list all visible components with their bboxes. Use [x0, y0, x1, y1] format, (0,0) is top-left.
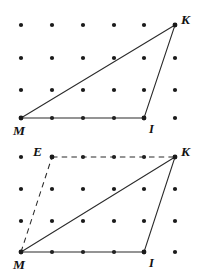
vertex-label-E: E: [32, 144, 42, 159]
vertex-label-I: I: [148, 122, 155, 136]
grid-dot-r2-c4: [142, 219, 146, 223]
grid-dot-r1-c0: [19, 56, 23, 60]
figure-bottom-panel: MIKE: [0, 139, 203, 278]
grid-dot-r0-c1: [50, 23, 54, 27]
grid-dot-r2-c0: [19, 219, 23, 223]
grid-dot-r2-c5: [173, 88, 177, 92]
grid-dot-r0-c2: [81, 23, 85, 27]
grid-dot-r1-c4: [142, 56, 146, 60]
edge-K-I: [144, 25, 175, 118]
grid-dot-r2-c3: [112, 219, 116, 223]
figure-bottom-canvas: MIKE: [0, 139, 203, 278]
solid-edges-bottom: [19, 155, 178, 255]
grid-dot-r2-c1: [50, 219, 54, 223]
figure-stack: MIK MIKE: [0, 0, 203, 278]
grid-dot-r3-c5: [173, 116, 177, 120]
grid-dot-r1-c0: [19, 187, 23, 191]
vertex-label-K: K: [180, 144, 191, 159]
grid-dot-r1-c2: [81, 56, 85, 60]
grid-dot-r0-c0: [19, 155, 23, 159]
grid-dot-r1-c1: [50, 187, 54, 191]
figure-top-panel: MIK: [0, 0, 203, 139]
vertex-dot-I: [142, 116, 147, 121]
vertex-dot-E: [50, 155, 55, 160]
solid-edges-top: [19, 23, 178, 121]
grid-dot-r1-c3: [112, 187, 116, 191]
edge-M-K: [21, 25, 175, 118]
grid-dot-r1-c3: [112, 56, 116, 60]
vertex-label-K: K: [180, 12, 191, 27]
grid-dot-r2-c4: [142, 88, 146, 92]
grid-dot-r2-c2: [81, 219, 85, 223]
grid-dot-r1-c1: [50, 56, 54, 60]
grid-dot-r2-c2: [81, 88, 85, 92]
vertex-labels-top: MIK: [12, 12, 191, 138]
vertex-dot-K: [173, 155, 178, 160]
grid-dot-r2-c5: [173, 219, 177, 223]
edge-K-I: [144, 157, 175, 252]
vertex-label-M: M: [12, 123, 26, 138]
vertex-dot-K: [173, 23, 178, 28]
vertex-dot-I: [142, 250, 147, 255]
grid-dot-r2-c0: [19, 88, 23, 92]
edge-M-E: [21, 157, 52, 252]
edge-M-K: [21, 157, 175, 252]
grid-dot-r3-c5: [173, 250, 177, 254]
vertex-dot-M: [19, 116, 24, 121]
grid-dot-r0-c3: [112, 23, 116, 27]
grid-dot-r1-c5: [173, 56, 177, 60]
vertex-label-M: M: [12, 257, 26, 272]
grid-dot-r2-c1: [50, 88, 54, 92]
grid-dot-r0-c0: [19, 23, 23, 27]
grid-dot-r1-c4: [142, 187, 146, 191]
grid-dot-r0-c4: [142, 23, 146, 27]
vertex-dot-M: [19, 250, 24, 255]
grid-dot-r1-c5: [173, 187, 177, 191]
vertex-label-I: I: [148, 256, 155, 270]
grid-dot-r2-c3: [112, 88, 116, 92]
figure-top-canvas: MIK: [0, 0, 203, 139]
grid-dot-r1-c2: [81, 187, 85, 191]
